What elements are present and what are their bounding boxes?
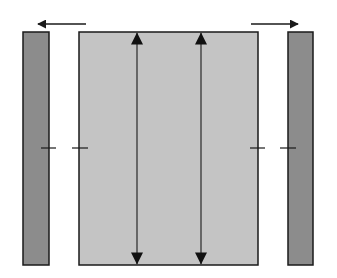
center-block	[79, 32, 258, 265]
diagram-canvas	[0, 0, 337, 278]
